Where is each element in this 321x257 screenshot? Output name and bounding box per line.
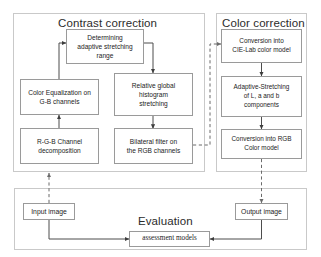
node-relative-histogram-line-2: histogram <box>132 90 175 99</box>
node-assessment-models-label: assessment models <box>142 234 197 244</box>
node-determining-line-2: adaptive stretching <box>77 42 132 51</box>
node-color-equalization-line-2: G-B channels <box>28 97 91 106</box>
node-input-image-label: Input image <box>31 207 67 216</box>
node-adaptive-stretching-line-1: Adaptive-Stretching <box>234 83 290 92</box>
node-bilateral-filter-rgb-channels[interactable]: Bilateral filter on the RGB channels <box>114 128 193 164</box>
node-relative-histogram-line-3: stretching <box>132 99 175 108</box>
node-rgb-channel-decomposition[interactable]: R-G-B Channel decomposition <box>20 128 99 164</box>
node-adaptive-stretching-line-3: components <box>234 101 290 110</box>
node-relative-global-histogram-stretching[interactable]: Relative global histogram stretching <box>114 73 193 116</box>
node-assessment-models[interactable]: assessment models <box>129 231 210 247</box>
node-output-image[interactable]: Output image <box>235 203 288 220</box>
node-conversion-into-rgb-color-model[interactable]: Conversion into RGB Color model <box>221 129 302 159</box>
section-title-contrast-correction: Contrast correction <box>58 17 157 29</box>
node-color-equalization-line-1: Color Equalization on <box>28 88 91 97</box>
section-title-evaluation: Evaluation <box>138 215 193 227</box>
node-determining-adaptive-stretching-range[interactable]: Determining adaptive stretching range <box>66 29 144 64</box>
node-determining-line-3: range <box>77 51 132 60</box>
diagram-canvas: Contrast correction Color correction Eva… <box>0 0 321 257</box>
section-title-color-correction: Color correction <box>222 17 305 29</box>
node-input-image[interactable]: Input image <box>23 203 75 220</box>
node-adaptive-stretching-line-2: of L, a and b <box>234 92 290 101</box>
node-conversion-into-cielab-color-model[interactable]: Conversion into CIE-Lab color model <box>221 29 302 63</box>
node-bilateral-filter-line-2: the RGB channels <box>127 146 181 155</box>
node-relative-histogram-line-1: Relative global <box>132 81 175 90</box>
node-rgb-conversion-line-2: Color model <box>231 144 291 153</box>
node-cielab-line-1: Conversion into <box>232 37 290 46</box>
node-output-image-label: Output image <box>241 207 282 216</box>
node-bilateral-filter-line-1: Bilateral filter on <box>127 137 181 146</box>
node-rgb-decomposition-line-1: R-G-B Channel <box>37 137 82 146</box>
node-adaptive-stretching-lab-components[interactable]: Adaptive-Stretching of L, a and b compon… <box>221 76 302 117</box>
node-cielab-line-2: CIE-Lab color model <box>232 46 290 55</box>
node-color-equalization-gb-channels[interactable]: Color Equalization on G-B channels <box>20 79 99 115</box>
node-rgb-conversion-line-1: Conversion into RGB <box>231 135 291 144</box>
node-rgb-decomposition-line-2: decomposition <box>37 146 82 155</box>
node-determining-line-1: Determining <box>77 33 132 42</box>
